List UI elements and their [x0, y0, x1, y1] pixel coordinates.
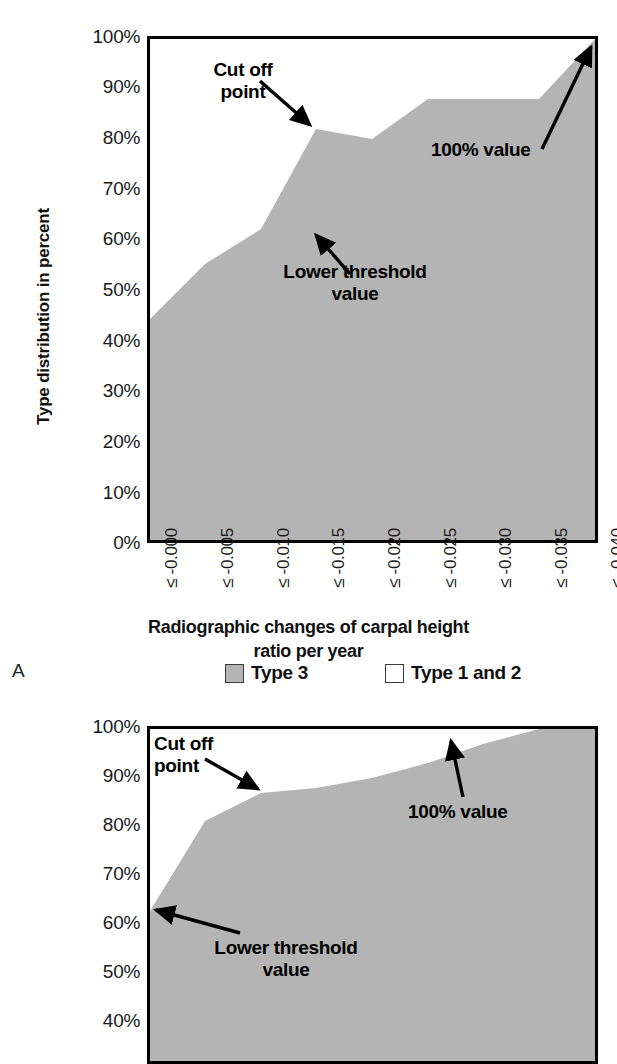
x-tick-1: ≤ -0.005 — [218, 519, 238, 597]
panel-a: 100% 90% 80% 70% 60% 50% 40% 30% 20% 10%… — [0, 0, 617, 690]
panel-a-y-axis-ticks: 100% 90% 80% 70% 60% 50% 40% 30% 20% 10%… — [48, 0, 140, 560]
panel-b-area-series — [150, 729, 595, 1061]
y-tick-90: 90% — [103, 76, 140, 98]
y-tick-70: 70% — [103, 863, 140, 885]
x-tick-2: ≤ -0.010 — [274, 519, 294, 597]
y-tick-100: 100% — [93, 26, 140, 48]
y-tick-60: 60% — [103, 228, 140, 250]
y-tick-40: 40% — [103, 1010, 140, 1032]
legend-item-type-1-and-2: Type 1 and 2 — [385, 662, 521, 684]
panel-b: 100% 90% 80% 70% 60% 50% 40% distributio… — [0, 690, 617, 1064]
legend-swatch-white-icon — [385, 664, 404, 683]
annot-line-2: value — [255, 283, 455, 305]
x-tick-3: ≤ -0.015 — [329, 519, 349, 597]
legend-swatch-gray-icon — [225, 664, 244, 683]
panel-b-annot-lower-threshold: Lower threshold value — [186, 937, 386, 981]
panel-a-plot-area: Cut off point Lower threshold value 100%… — [147, 36, 598, 543]
x-tick-0: ≤ -0.000 — [162, 519, 182, 597]
x-tick-8: ≤ -0.040 — [608, 519, 617, 597]
y-tick-10: 10% — [103, 482, 140, 504]
panel-letter-a: A — [12, 660, 25, 682]
y-tick-0: 0% — [113, 532, 140, 554]
annot-line-2: value — [186, 959, 386, 981]
panel-a-annot-lower-threshold: Lower threshold value — [255, 261, 455, 305]
x-tick-6: ≤ -0.030 — [496, 519, 516, 597]
y-tick-20: 20% — [103, 431, 140, 453]
panel-a-annot-cut-off-point: Cut off point — [183, 59, 303, 103]
panel-b-annot-cut-off-point: Cut off point — [154, 733, 254, 777]
annot-line-1: 100% value — [408, 801, 548, 823]
x-tick-4: ≤ -0.020 — [385, 519, 405, 597]
y-tick-50: 50% — [103, 279, 140, 301]
legend-item-type-3: Type 3 — [225, 662, 308, 684]
x-tick-5: ≤ -0.025 — [441, 519, 461, 597]
y-tick-30: 30% — [103, 380, 140, 402]
panel-b-plot-area: Cut off point Lower threshold value 100%… — [147, 726, 598, 1064]
annot-line-2: point — [154, 755, 254, 777]
y-tick-80: 80% — [103, 814, 140, 836]
legend-label-type-3: Type 3 — [251, 662, 308, 684]
panel-a-x-axis-title-line-1: Radiographic changes of carpal height — [0, 617, 617, 638]
x-tick-7: ≤ -0.035 — [552, 519, 572, 597]
panel-b-annot-100-percent-value: 100% value — [408, 801, 548, 823]
panel-a-legend: Type 3 Type 1 and 2 — [0, 662, 617, 690]
y-tick-60: 60% — [103, 912, 140, 934]
legend-label-type-1-and-2: Type 1 and 2 — [411, 662, 521, 684]
annot-line-1: 100% value — [431, 139, 561, 161]
panel-b-y-axis-ticks: 100% 90% 80% 70% 60% 50% 40% — [48, 690, 140, 1064]
y-tick-80: 80% — [103, 127, 140, 149]
panel-a-x-axis-title-line-2: ratio per year — [0, 641, 617, 662]
y-tick-50: 50% — [103, 961, 140, 983]
y-tick-90: 90% — [103, 765, 140, 787]
y-tick-70: 70% — [103, 178, 140, 200]
annot-line-1: Cut off — [183, 59, 303, 81]
panel-a-annot-100-percent-value: 100% value — [431, 139, 561, 161]
panel-a-y-axis-title: Type distribution in percent — [34, 208, 54, 425]
annot-line-1: Cut off — [154, 733, 254, 755]
annot-line-1: Lower threshold — [186, 937, 386, 959]
y-tick-40: 40% — [103, 330, 140, 352]
series-type-3-area — [150, 729, 595, 1061]
y-tick-100: 100% — [93, 716, 140, 738]
annot-line-2: point — [183, 81, 303, 103]
annot-line-1: Lower threshold — [255, 261, 455, 283]
panel-a-x-axis-ticks: ≤ -0.000 ≤ -0.005 ≤ -0.010 ≤ -0.015 ≤ -0… — [147, 548, 598, 626]
